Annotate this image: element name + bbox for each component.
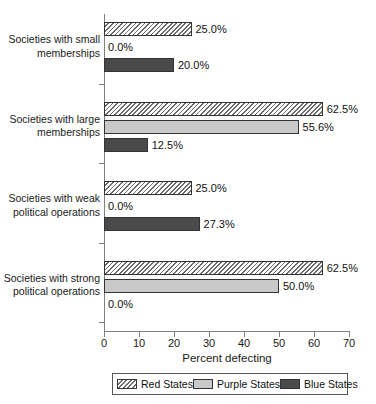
- bar-purple-3: [104, 279, 279, 293]
- y-group-tick-0: [99, 84, 105, 85]
- x-tick-label-0: 0: [89, 337, 119, 349]
- category-label-0: Societies with smallmemberships: [2, 33, 100, 60]
- legend-item-blue-states: Blue States: [280, 378, 358, 390]
- legend-item-red-states: Red States: [117, 378, 193, 390]
- category-label-line: memberships: [2, 47, 100, 61]
- category-label-line: memberships: [2, 126, 100, 140]
- category-label-line: Societies with weak: [2, 192, 100, 206]
- bar-red-1: [104, 102, 323, 116]
- y-group-tick-1: [99, 163, 105, 164]
- bar-value-blue-1: 12.5%: [152, 138, 183, 152]
- bar-blue-2: [104, 217, 200, 231]
- legend-item-purple-states: Purple States: [193, 378, 280, 390]
- chart-legend: Red States Purple States Blue States: [112, 373, 348, 395]
- legend-label-purple-states: Purple States: [217, 378, 280, 390]
- bar-value-red-1: 62.5%: [327, 102, 358, 116]
- category-label-1: Societies with largememberships: [2, 113, 100, 140]
- y-group-tick-2: [99, 243, 105, 244]
- x-axis-title: Percent defecting: [104, 352, 350, 364]
- category-label-line: political operations: [2, 206, 100, 220]
- x-tick-label-20: 20: [159, 337, 189, 349]
- category-label-line: Societies with small: [2, 33, 100, 47]
- bar-red-2: [104, 181, 192, 195]
- bar-value-red-0: 25.0%: [196, 22, 227, 36]
- x-tick-label-30: 30: [194, 337, 224, 349]
- bar-value-blue-0: 20.0%: [178, 58, 209, 72]
- bar-purple-1: [104, 120, 299, 134]
- x-tick-label-50: 50: [264, 337, 294, 349]
- legend-swatch-red-icon: [117, 379, 137, 389]
- bar-chart: 010203040506070 Societies with smallmemb…: [0, 0, 376, 404]
- bar-value-purple-0: 0.0%: [108, 40, 133, 54]
- legend-swatch-purple-icon: [193, 379, 213, 389]
- bar-value-purple-3: 50.0%: [283, 279, 314, 293]
- bar-blue-1: [104, 138, 148, 152]
- bar-value-blue-2: 27.3%: [204, 217, 235, 231]
- legend-label-red-states: Red States: [141, 378, 193, 390]
- legend-swatch-blue-icon: [280, 379, 300, 389]
- bar-value-purple-2: 0.0%: [108, 199, 133, 213]
- x-tick-label-60: 60: [299, 337, 329, 349]
- x-tick-label-10: 10: [124, 337, 154, 349]
- category-label-2: Societies with weakpolitical operations: [2, 192, 100, 219]
- bar-value-blue-3: 0.0%: [108, 297, 133, 311]
- bar-value-red-2: 25.0%: [196, 181, 227, 195]
- bar-red-0: [104, 22, 192, 36]
- bar-blue-0: [104, 58, 174, 72]
- x-tick-label-70: 70: [334, 337, 364, 349]
- x-tick-label-40: 40: [229, 337, 259, 349]
- bar-value-purple-1: 55.6%: [303, 120, 334, 134]
- bar-red-3: [104, 261, 323, 275]
- legend-label-blue-states: Blue States: [304, 378, 358, 390]
- bar-value-red-3: 62.5%: [327, 261, 358, 275]
- category-label-line: political operations: [2, 285, 100, 299]
- category-label-3: Societies with strongpolitical operation…: [2, 272, 100, 299]
- category-label-line: Societies with strong: [2, 272, 100, 286]
- y-group-tick-3: [99, 322, 105, 323]
- category-label-line: Societies with large: [2, 113, 100, 127]
